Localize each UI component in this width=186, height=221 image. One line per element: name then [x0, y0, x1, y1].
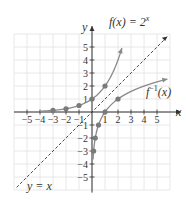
y-tick-label: −3: [77, 146, 88, 157]
arrowhead-icon: [162, 37, 168, 42]
x-tick-label: 4: [142, 114, 147, 125]
graph-canvas: −5−4−3−2−112345−5−4−3−2−112345 x y f(x) …: [0, 0, 186, 221]
data-point: [89, 96, 94, 101]
data-point: [50, 108, 55, 113]
y-tick-label: 2: [83, 81, 88, 92]
y-equals-x-label: y = x: [26, 179, 52, 193]
data-point: [96, 122, 101, 127]
y-tick-label: −2: [77, 133, 88, 144]
f-label: f(x) = 2x: [109, 14, 150, 29]
x-tick-label: 3: [129, 114, 134, 125]
y-tick-label: −4: [77, 159, 88, 170]
x-tick-label: −4: [35, 114, 46, 125]
y-tick-label: 5: [83, 42, 88, 53]
x-axis-label: x: [175, 105, 182, 119]
curve-f-2-to-x: [40, 48, 122, 111]
labels: x y f(x) = 2x f−1(x) y = x: [26, 14, 182, 193]
data-point: [91, 148, 96, 153]
data-point: [93, 135, 98, 140]
x-tick-label: 2: [116, 114, 121, 125]
x-tick-label: −5: [22, 114, 33, 125]
x-tick-label: −3: [48, 114, 59, 125]
axes: [14, 26, 181, 193]
y-tick-label: −1: [77, 120, 88, 131]
y-axis-arrow-icon: [90, 26, 95, 31]
y-tick-label: 3: [83, 68, 88, 79]
x-tick-label: 5: [155, 114, 160, 125]
y-tick-label: −5: [77, 172, 88, 183]
data-point: [76, 103, 81, 108]
data-point: [63, 106, 68, 111]
data-point: [115, 96, 120, 101]
y-tick-label: 4: [83, 55, 88, 66]
y-axis-label: y: [81, 20, 88, 34]
x-tick-label: −2: [61, 114, 72, 125]
f-inverse-label: f−1(x): [146, 84, 171, 99]
arrowhead-icon: [162, 78, 168, 83]
data-point: [102, 83, 107, 88]
data-point: [102, 109, 107, 114]
arrowhead-icon: [118, 48, 123, 54]
